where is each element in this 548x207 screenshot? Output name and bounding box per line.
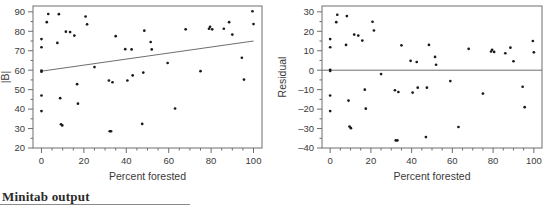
y-tick-label: 70 <box>14 45 25 56</box>
data-point <box>416 86 419 89</box>
x-tick-label: 0 <box>327 155 332 166</box>
x-axis-title: Percent forested <box>109 170 186 182</box>
data-point <box>111 81 114 84</box>
data-point <box>411 91 414 94</box>
data-point <box>329 110 332 113</box>
data-point <box>40 94 43 97</box>
data-point <box>40 70 43 73</box>
data-point <box>357 34 360 37</box>
data-point <box>353 33 356 36</box>
x-tick-label: 40 <box>121 155 132 166</box>
data-point <box>346 15 349 18</box>
data-point <box>523 106 526 109</box>
data-point <box>509 46 512 49</box>
data-point <box>512 60 515 63</box>
data-point <box>425 136 428 139</box>
y-tick-label: 80 <box>14 26 25 37</box>
plot-frame <box>33 6 262 148</box>
y-tick-label: 30 <box>303 6 314 17</box>
data-points <box>329 13 535 141</box>
data-point <box>59 97 62 100</box>
data-point <box>397 91 400 94</box>
chart-panel-residual: 020406080100Percent forested–40–30–20–10… <box>274 0 548 190</box>
data-point <box>361 39 364 42</box>
data-point <box>40 110 43 113</box>
y-tick-label: 90 <box>14 6 25 17</box>
data-point <box>449 80 452 83</box>
y-tick-label: 0 <box>309 65 314 76</box>
data-point <box>222 27 225 30</box>
data-point <box>428 44 431 47</box>
y-tick-label: 40 <box>14 103 25 114</box>
caption-underline <box>0 204 190 205</box>
data-point <box>149 41 152 44</box>
data-point <box>415 61 418 64</box>
data-point <box>531 40 534 43</box>
data-point <box>371 20 374 23</box>
data-point <box>130 48 133 51</box>
data-point <box>65 30 68 33</box>
data-point <box>228 21 231 24</box>
data-point <box>73 34 76 37</box>
y-tick-label: 30 <box>14 123 25 134</box>
x-tick-label: 60 <box>163 155 174 166</box>
data-point <box>58 13 61 16</box>
data-point <box>409 60 412 63</box>
data-point <box>345 44 348 47</box>
y-axis-title: Residual <box>276 57 288 98</box>
data-point <box>108 79 111 82</box>
x-axis: 020406080100Percent forested <box>327 148 541 182</box>
data-point <box>40 46 43 49</box>
data-point <box>61 124 64 127</box>
data-point <box>93 66 96 69</box>
data-point <box>150 48 153 51</box>
x-tick-label: 0 <box>39 155 44 166</box>
data-point <box>243 78 246 81</box>
data-point <box>77 102 80 105</box>
data-point <box>491 48 494 51</box>
data-point <box>114 35 117 38</box>
x-tick-label: 100 <box>526 155 542 166</box>
y-axis: –40–30–20–100102030Residual <box>276 6 322 153</box>
data-point <box>126 79 129 82</box>
data-point <box>131 74 134 77</box>
data-point <box>363 88 366 91</box>
data-point <box>124 48 127 51</box>
trend-line <box>41 41 253 71</box>
y-tick-label: –30 <box>298 123 314 134</box>
data-point <box>184 28 187 31</box>
data-point <box>329 38 332 41</box>
data-point <box>380 73 383 76</box>
data-point <box>56 42 59 45</box>
data-point <box>40 38 43 41</box>
data-point <box>143 29 146 32</box>
data-point <box>86 23 89 26</box>
data-point <box>329 46 332 49</box>
y-tick-label: –10 <box>298 84 314 95</box>
figure-root: 020406080100Percent forested203040506070… <box>0 0 548 207</box>
data-point <box>166 62 169 65</box>
y-tick-label: 60 <box>14 65 25 76</box>
x-axis: 020406080100Percent forested <box>39 148 262 182</box>
data-points <box>40 10 255 133</box>
y-tick-label: 10 <box>303 45 314 56</box>
x-tick-label: 20 <box>366 155 377 166</box>
y-tick-label: 20 <box>303 26 314 37</box>
data-point <box>493 51 496 54</box>
data-point <box>241 56 244 59</box>
data-point <box>400 44 403 47</box>
data-point <box>110 130 113 133</box>
data-point <box>394 89 397 92</box>
data-point <box>252 23 255 26</box>
x-tick-label: 80 <box>206 155 217 166</box>
scatter-plot-abs-resid: 020406080100Percent forested203040506070… <box>0 0 274 190</box>
data-point <box>373 29 376 32</box>
data-point <box>435 63 438 66</box>
data-point <box>533 51 536 54</box>
x-tick-label: 20 <box>79 155 90 166</box>
scatter-plot-residual: 020406080100Percent forested–40–30–20–10… <box>274 0 548 190</box>
y-axis: 2030405060708090|B| <box>0 6 33 153</box>
data-point <box>434 56 437 59</box>
data-point <box>396 139 399 142</box>
x-tick-label: 100 <box>246 155 262 166</box>
